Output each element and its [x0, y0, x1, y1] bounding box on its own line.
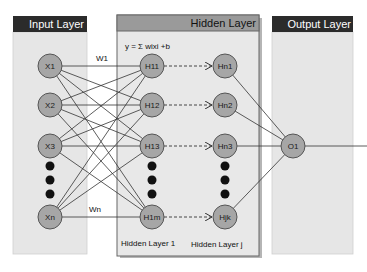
ellipsis-dot	[46, 190, 55, 199]
node-hn3: Hn3	[213, 134, 237, 158]
node-label: H1m	[144, 213, 161, 222]
weight-label-w1: W1	[96, 54, 109, 63]
neuron-formula: y = Σ wixi +b	[125, 42, 171, 51]
node-hn1: Hn1	[213, 54, 237, 78]
node-h11: H11	[140, 54, 164, 78]
node-label: Hn1	[218, 62, 233, 71]
input-layer-title: Input Layer	[29, 18, 84, 30]
node-o1: O1	[281, 134, 305, 158]
ellipsis-dot	[148, 190, 157, 199]
node-label: H11	[145, 62, 160, 71]
ellipsis-dot	[221, 176, 230, 185]
node-label: O1	[288, 142, 299, 151]
node-x1: X1	[38, 54, 62, 78]
node-label: H13	[145, 142, 160, 151]
hidden-layer-1-label: Hidden Layer 1	[121, 239, 176, 248]
ellipsis-dot	[46, 176, 55, 185]
node-x3: X3	[38, 134, 62, 158]
node-label: Hjk	[219, 213, 232, 222]
ellipsis-dot	[46, 162, 55, 171]
node-h1m: H1m	[140, 205, 164, 229]
node-x2: X2	[38, 93, 62, 117]
node-label: Hn2	[218, 101, 233, 110]
neural-network-diagram: Input Layer Hidden Layer y = Σ wixi +b H…	[0, 0, 367, 272]
node-hn2: Hn2	[213, 93, 237, 117]
node-h12: H12	[140, 93, 164, 117]
hidden-layer-title: Hidden Layer	[191, 17, 257, 29]
node-label: X3	[45, 142, 55, 151]
node-label: X1	[45, 62, 55, 71]
weight-label-wn: Wn	[89, 205, 101, 214]
node-label: Hn3	[218, 142, 233, 151]
ellipsis-dot	[221, 162, 230, 171]
ellipsis-dot	[221, 190, 230, 199]
hidden-layer-panel: Hidden Layer y = Σ wixi +b Hidden Layer …	[117, 15, 262, 258]
node-label: X2	[45, 101, 55, 110]
ellipsis-dot	[148, 162, 157, 171]
ellipsis-dot	[148, 176, 157, 185]
output-layer-title: Output Layer	[287, 18, 351, 30]
node-xn: Xn	[38, 205, 62, 229]
node-hjk: Hjk	[213, 205, 237, 229]
node-label: Xn	[45, 213, 55, 222]
node-label: H12	[145, 101, 160, 110]
node-h13: H13	[140, 134, 164, 158]
hidden-layer-j-label: Hidden Layer j	[191, 240, 243, 249]
